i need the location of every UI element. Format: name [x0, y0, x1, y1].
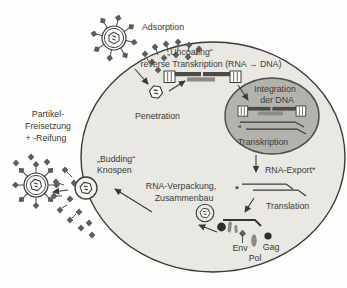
- label-reverse-transcription: reverse Transkription (RNA → DNA): [141, 59, 282, 69]
- label-integration-line2: der DNA: [260, 95, 294, 105]
- budding-virion: [75, 177, 97, 199]
- figure-retrovirus-cycle: Adsorption „Uncoating“ reverse Transkrip…: [0, 0, 347, 288]
- diagram-canvas: Adsorption „Uncoating“ reverse Transkrip…: [0, 0, 347, 288]
- protein-gag-glyph: [264, 232, 271, 239]
- label-packaging-line2: Zusammenbau: [155, 193, 214, 203]
- label-env: Env: [232, 243, 248, 253]
- label-gag: Gag: [263, 242, 280, 252]
- label-budding-line2: Knospen: [97, 165, 132, 175]
- label-release-line2: Freisetzung: [25, 121, 71, 131]
- label-budding-line1: „Budding“: [97, 154, 135, 164]
- label-release-line3: + -Reifung: [26, 133, 67, 143]
- protein-pol-glyph: [251, 234, 256, 246]
- label-translation: Translation: [266, 201, 309, 211]
- loose-spike-diamonds: [13, 153, 51, 166]
- label-release-line1: Partikel-: [32, 109, 64, 119]
- ribosome: [217, 223, 226, 232]
- label-pol: Pol: [249, 253, 262, 263]
- released-virion: [12, 161, 60, 209]
- label-rna-export: RNA-Export*: [265, 165, 316, 175]
- label-penetration: Penetration: [135, 111, 180, 121]
- label-packaging-line1: RNA-Verpackung,: [146, 181, 216, 191]
- label-transcription: Transkription: [238, 137, 289, 147]
- packaging-capsid: [196, 204, 214, 222]
- label-adsorption: Adsorption: [142, 22, 184, 32]
- arrow-release: [53, 190, 68, 192]
- label-integration-line1: Integration: [254, 84, 296, 94]
- label-uncoating: „Uncoating“: [167, 47, 213, 57]
- adsorbing-virion: [85, 9, 142, 66]
